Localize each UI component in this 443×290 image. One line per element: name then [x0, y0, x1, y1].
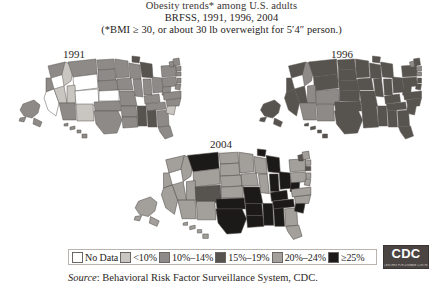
source-line: Source: Behavioral Risk Factor Surveilla… — [68, 272, 318, 284]
legend-item-15-19[interactable]: 15%–19% — [214, 250, 270, 264]
legend-item-no-data[interactable]: No Data — [71, 250, 119, 264]
legend-item-20-24[interactable]: 20%–24% — [271, 250, 327, 264]
map-panel-2004: 2004 — [133, 138, 313, 246]
legend-label-20-24: 20%–24% — [285, 252, 326, 263]
cdc-logo-text: CDC — [391, 246, 420, 261]
us-map-2004 — [133, 138, 313, 246]
page-note: (*BMI ≥ 30, or about 30 lb overweight fo… — [0, 24, 443, 36]
page-title: Obesity trends* among U.S. adults — [0, 0, 443, 12]
legend-item-gte-25[interactable]: ≥25% — [327, 250, 366, 264]
page-subtitle: BRFSS, 1991, 1996, 2004 — [0, 12, 443, 24]
map-year-label-2004: 2004 — [191, 138, 251, 150]
legend-swatch-no-data — [72, 252, 83, 263]
legend-swatch-10-14 — [159, 252, 170, 263]
legend-label-10-14: 10%–14% — [172, 252, 213, 263]
legend-label-15-19: 15%–19% — [228, 252, 269, 263]
map-year-label-1991: 1991 — [44, 48, 104, 60]
legend-swatch-lt-10 — [120, 252, 131, 263]
legend-label-lt-10: <10% — [133, 252, 157, 263]
map-year-label-1996: 1996 — [312, 48, 372, 60]
legend-swatch-gte-25 — [328, 252, 339, 263]
cdc-logo: CDC CENTERS FOR DISEASE CONTROL AND PREV… — [383, 245, 429, 269]
map-panel-1991: 1991 — [18, 48, 183, 143]
legend-label-gte-25: ≥25% — [341, 252, 365, 263]
us-map-1996 — [256, 48, 426, 143]
source-label: Source — [68, 272, 97, 283]
legend: No Data <10% 10%–14% 15%–19% 20%–24% ≥25… — [68, 249, 377, 265]
map-panel-1996: 1996 — [256, 48, 426, 143]
legend-swatch-20-24 — [272, 252, 283, 263]
legend-item-lt-10[interactable]: <10% — [119, 250, 158, 264]
source-text: : Behavioral Risk Factor Surveillance Sy… — [97, 272, 318, 283]
legend-swatch-15-19 — [215, 252, 226, 263]
legend-label-no-data: No Data — [85, 252, 118, 263]
cdc-logo-subtext: CENTERS FOR DISEASE CONTROL AND PREVENTI… — [384, 264, 428, 267]
title-block: Obesity trends* among U.S. adults BRFSS,… — [0, 0, 443, 36]
legend-item-10-14[interactable]: 10%–14% — [158, 250, 214, 264]
us-map-1991 — [18, 48, 183, 143]
